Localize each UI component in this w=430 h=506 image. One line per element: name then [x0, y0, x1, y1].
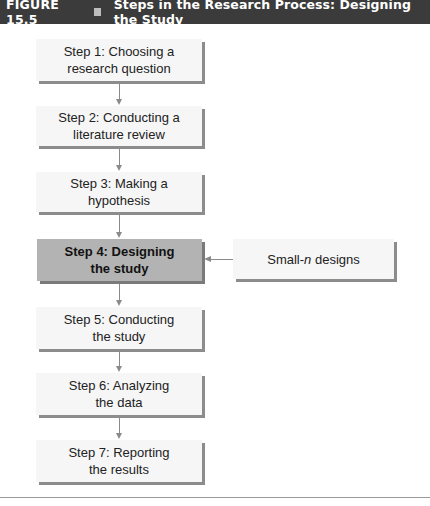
connector-side-to-step-4 — [210, 259, 233, 260]
arrow-down-icon — [116, 99, 122, 105]
step-5-label: Step 5: Conducting the study — [64, 311, 175, 345]
connector-5-6 — [119, 352, 120, 367]
arrow-down-icon — [116, 165, 122, 171]
step-7-box: Step 7: Reporting the results — [36, 440, 202, 482]
step-1-label: Step 1: Choosing a research question — [64, 43, 175, 77]
step-6-box: Step 6: Analyzing the data — [36, 373, 202, 415]
square-bullet-icon — [94, 8, 101, 16]
arrow-down-icon — [116, 433, 122, 439]
step-6-label: Step 6: Analyzing the data — [69, 377, 169, 411]
step-2-label: Step 2: Conducting a literature review — [58, 109, 179, 143]
connector-2-3 — [119, 149, 120, 166]
small-n-prefix: Small- — [267, 252, 304, 267]
step-2-box: Step 2: Conducting a literature review — [36, 106, 202, 146]
connector-3-4 — [119, 215, 120, 233]
step-7-label: Step 7: Reporting the results — [68, 444, 169, 478]
step-1-box: Step 1: Choosing a research question — [36, 39, 202, 81]
small-n-suffix: designs — [311, 252, 359, 267]
bottom-rule — [0, 497, 430, 498]
connector-1-2 — [119, 84, 120, 100]
arrow-down-icon — [116, 366, 122, 372]
step-5-box: Step 5: Conducting the study — [36, 307, 202, 349]
arrow-left-icon — [204, 256, 211, 262]
arrow-down-icon — [116, 300, 122, 306]
figure-number: FIGURE 15.5 — [6, 0, 82, 27]
step-3-label: Step 3: Making a hypothesis — [70, 175, 168, 209]
figure-header: FIGURE 15.5 Steps in the Research Proces… — [0, 0, 430, 24]
connector-6-7 — [119, 418, 120, 434]
step-3-box: Step 3: Making a hypothesis — [36, 172, 202, 212]
arrow-down-icon — [116, 232, 122, 238]
small-n-designs-box: Small-n designs — [233, 239, 394, 279]
small-n-designs-label: Small-n designs — [267, 251, 360, 268]
step-4-label: Step 4: Designing the study — [65, 243, 175, 277]
figure-title: Steps in the Research Process: Designing… — [114, 0, 430, 27]
step-4-box: Step 4: Designing the study — [37, 239, 202, 281]
connector-4-5 — [119, 284, 120, 301]
